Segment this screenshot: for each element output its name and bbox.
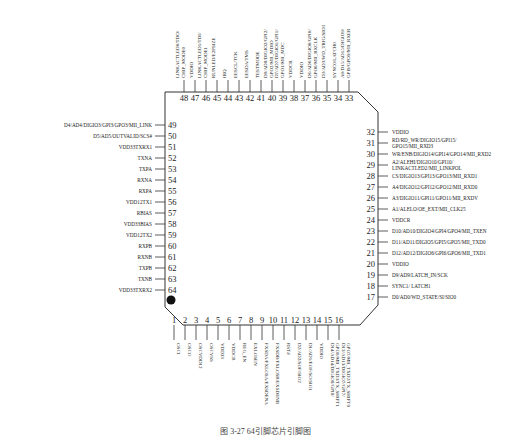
- pin-number-24: 24: [367, 215, 376, 225]
- pin-label-38: VDDCR: [288, 60, 293, 78]
- pin-number-63: 63: [168, 274, 177, 284]
- pin-label-13: D1/AD1/EOF/SO/SIO1: [308, 343, 313, 391]
- pin-number-52: 52: [168, 153, 177, 163]
- pin-label-17: D0/AD0/WD_STATE/SI/SIO0: [392, 294, 457, 300]
- pin-number-31: 31: [367, 138, 376, 148]
- pin-number-48: 48: [180, 93, 189, 103]
- pin-number-11: 11: [280, 315, 288, 325]
- pin-label-10: FXSDB/FXLOSB/EXSDENB: [275, 343, 280, 405]
- pin-number-41: 41: [257, 93, 266, 103]
- pin-label-37: VDDIO: [299, 62, 304, 78]
- pin-label-47: VDDIO: [189, 62, 194, 78]
- pin-number-39: 39: [279, 93, 288, 103]
- pin-number-12: 12: [291, 315, 300, 325]
- pin-label-31-line2: GPO15/MII_RXD3: [392, 143, 434, 149]
- pin-number-22: 22: [367, 237, 376, 247]
- pin-number-44: 44: [224, 93, 233, 103]
- pin-number-57: 57: [168, 208, 177, 218]
- pin-number-36: 36: [312, 93, 321, 103]
- pin-label-53: TXPA: [139, 166, 152, 172]
- pin-label-5: VDD33: [220, 343, 225, 359]
- pin-number-19: 19: [367, 270, 376, 280]
- pin-number-34: 34: [334, 93, 343, 103]
- pin1-marker-dot: [167, 296, 176, 305]
- pin-number-50: 50: [168, 131, 177, 141]
- pin-label-50: D5/AD5/OUTVALID/SCS#: [93, 133, 152, 139]
- pin-label-43: EESCL/TCK: [233, 51, 238, 78]
- pin-label-15: GPO8/MII_TXD3/TX_SHIFT1: [335, 343, 340, 407]
- chip-body: [165, 92, 378, 325]
- pins-layer: 1OSCI2OSCO3OSCVDD124OSCVSS5VDD336VDDCR7R…: [64, 24, 491, 407]
- pin-label-29-line2: LINKACTLED2/MII_LINKPOL: [392, 165, 462, 171]
- pin-number-3: 3: [194, 315, 198, 325]
- pin-number-8: 8: [249, 315, 253, 325]
- pin-label-1: OSCI: [176, 343, 181, 355]
- pin-label-19: D9/AD9/LATCH_IN/SCK: [392, 272, 448, 278]
- pin-number-45: 45: [213, 93, 222, 103]
- pin-label-59: VDD12TX2: [126, 232, 152, 238]
- pin-label-16: D13/AD13/DIGIO7/GPI7/: [341, 343, 346, 397]
- pin-number-27: 27: [367, 182, 376, 192]
- pin-label-45: RUNLED/E2PSIZE: [211, 37, 216, 78]
- pin-number-25: 25: [367, 204, 376, 214]
- pin-number-55: 55: [168, 186, 177, 196]
- pin-number-38: 38: [290, 93, 299, 103]
- pin-number-15: 15: [324, 315, 333, 325]
- pin-label-33: A0/D15/AD15/DIGIO9/: [340, 28, 345, 78]
- pin-label-2: OSCO: [187, 343, 192, 357]
- pin-label-64: VDD33TXRX2: [119, 287, 153, 293]
- pin-label-54: RXNA: [137, 177, 152, 183]
- pin-number-61: 61: [168, 252, 177, 262]
- figure-caption: 图 3-27 64引脚芯片引脚图: [0, 425, 531, 436]
- pin-number-30: 30: [367, 149, 376, 159]
- pin-label-36: GPO0/MII_RXCLK: [313, 36, 318, 78]
- pin-number-51: 51: [168, 142, 177, 152]
- pin-label-58: VDD33BIAS: [124, 221, 152, 227]
- pin-number-42: 42: [246, 93, 255, 103]
- pin-number-32: 32: [367, 127, 376, 137]
- pin-number-29: 29: [367, 160, 376, 170]
- pin-label-49: D4/AD4/DIGIO3/GPI3/GPO3/MII_LINK: [64, 122, 152, 128]
- pin-label-11: RST#: [286, 343, 291, 355]
- pin-label-15: D14/AD14/DIGIO8/GPI8/: [330, 343, 335, 397]
- pin-number-40: 40: [268, 93, 277, 103]
- pin-number-62: 62: [168, 263, 177, 273]
- pin-label-48: CHIP_MODE0: [181, 46, 186, 78]
- pin-label-26: A3/DIGIO11/GPI11/GPO11/MII_RXDV: [392, 195, 478, 201]
- pin-number-4: 4: [205, 315, 210, 325]
- pin-label-39: D7/AD7/DIGIO1/GPI1/: [274, 29, 279, 78]
- pin-label-34: SYNC0/LATCH0: [332, 42, 337, 78]
- pin-number-60: 60: [168, 241, 177, 251]
- pin-label-61: RXNB: [138, 254, 153, 260]
- pin-number-47: 47: [191, 93, 200, 103]
- pin-number-14: 14: [313, 315, 322, 325]
- pin-label-27: A4/DIGIO12/GPI12/GPO12/MII_RXD0: [392, 184, 478, 190]
- pin-label-30: WR/ENB/DIGIO14/GPI14/GPO14/MII_RXD2: [392, 151, 492, 157]
- pin-label-12: D2/AD2/SOF/SIO2: [297, 343, 302, 383]
- pin-label-25: A1/ALELO/OE_EXT/MII_CLK25: [392, 206, 466, 212]
- pin-label-22: D11/AD11/DIGIO5/GPI5/GPO5/MII_TXD0: [392, 239, 486, 245]
- pin-number-5: 5: [216, 315, 220, 325]
- pin-number-49: 49: [168, 120, 177, 130]
- pin-label-57: RBIAS: [137, 210, 152, 216]
- pin-label-42: EESDA/TMS: [244, 50, 249, 78]
- pin-number-28: 28: [367, 171, 376, 181]
- pin-label-32: VDDIO: [392, 129, 409, 135]
- pin-number-54: 54: [168, 175, 177, 185]
- pin-number-20: 20: [367, 259, 376, 269]
- pin-label-41: TESTMODE: [255, 51, 260, 78]
- pin-label-36: D6/AD6/DIGIO0/GPI0/: [307, 29, 312, 78]
- pin-label-46: LINKACTLED1/TDI/: [197, 32, 202, 78]
- pin-number-35: 35: [323, 93, 332, 103]
- pin-label-23: D10/AD10/DIGIO4/GPI4/GPO4/MII_TXEN: [392, 228, 487, 234]
- pin-label-18: SYNC1/ LATCH1: [392, 283, 431, 289]
- pin-number-1: 1: [172, 315, 176, 325]
- chip-outline-canvas: 1OSCI2OSCO3OSCVDD124OSCVSS5VDD336VDDCR7R…: [0, 0, 531, 443]
- pin-label-21: D12/AD12/DIGIO6/GPI6/GPO6/MII_TXD1: [392, 250, 486, 256]
- pin-label-55: RXPA: [139, 188, 153, 194]
- pin-label-28: CS/DIGIO13/GPI13/GPO13/MII_RXD1: [392, 173, 478, 179]
- pin-label-33: GPI9/GPO9/MII_RXER: [346, 28, 351, 78]
- pin-label-48: LINKACTLED0/TDO/: [175, 30, 180, 78]
- pin-label-14: VDDIO: [319, 343, 324, 359]
- pin-number-2: 2: [183, 315, 187, 325]
